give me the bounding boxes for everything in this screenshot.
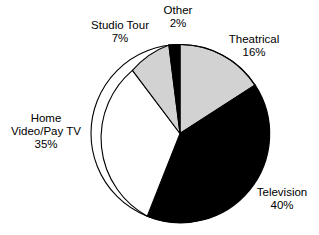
pie-label-television-value: 40%	[247, 199, 317, 212]
pie-label-other-name: Other	[148, 4, 208, 17]
pie-label-theatrical-name: Theatrical	[219, 33, 289, 46]
pie-label-studio-tour-value: 7%	[82, 32, 158, 45]
pie-chart: Other 2% Studio Tour 7% Theatrical 16% H…	[0, 0, 319, 235]
pie-label-home-video-pay-tv-value: 35%	[4, 138, 88, 151]
pie-label-studio-tour-name: Studio Tour	[82, 19, 158, 32]
pie-label-home-video-pay-tv-name-line1: Home	[4, 112, 88, 125]
pie-label-television: Television 40%	[247, 186, 317, 212]
pie-label-home-video-pay-tv: Home Video/Pay TV 35%	[4, 112, 88, 151]
pie-label-home-video-pay-tv-name-line2: Video/Pay TV	[4, 125, 88, 138]
pie-label-television-name: Television	[247, 186, 317, 199]
pie-label-studio-tour: Studio Tour 7%	[82, 19, 158, 45]
pie-label-theatrical-value: 16%	[219, 46, 289, 59]
pie-label-theatrical: Theatrical 16%	[219, 33, 289, 59]
